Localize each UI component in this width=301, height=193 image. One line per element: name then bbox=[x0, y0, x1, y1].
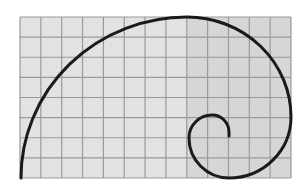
golden-spiral-diagram bbox=[0, 0, 301, 193]
